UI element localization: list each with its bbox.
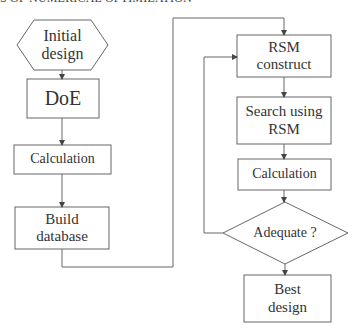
calculation-left-label: Calculation (14, 145, 111, 174)
search-rsm-line1: Search using (245, 103, 322, 120)
edge-adequate-loop (204, 57, 237, 233)
build-database-label: Build database (15, 207, 109, 249)
initial-design-label: Initial design (34, 20, 91, 70)
doe-label: DoE (27, 79, 99, 118)
build-database-line2: database (36, 228, 88, 245)
search-rsm-line2: RSM (268, 121, 300, 138)
rsm-construct-line2: construct (257, 56, 312, 73)
build-database-line1: Build (45, 211, 78, 228)
rsm-construct-line1: RSM (268, 39, 300, 56)
best-design-line1: Best (274, 281, 301, 298)
initial-design-line1: Initial (43, 27, 81, 45)
calculation-right-label: Calculation (238, 159, 331, 190)
best-design-line2: design (268, 299, 307, 316)
rsm-construct-label: RSM construct (237, 35, 331, 77)
adequate-label: Adequate ? (240, 222, 330, 244)
best-design-label: Best design (244, 275, 331, 322)
initial-design-line2: design (42, 45, 84, 63)
search-rsm-label: Search using RSM (237, 97, 331, 144)
